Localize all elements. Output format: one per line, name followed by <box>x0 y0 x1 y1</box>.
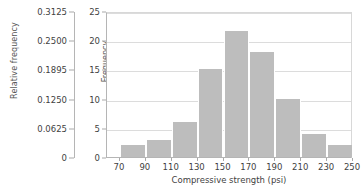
secondary-y-axis-ticks: 00.06250.12500.18950.25000.3125 <box>14 12 74 158</box>
secondary-y-tick-label: 0.0625 <box>37 124 67 134</box>
histogram-bar <box>301 134 327 157</box>
x-tick-mark <box>274 158 275 161</box>
plot-area <box>106 12 352 158</box>
secondary-y-tick-label: 0.1895 <box>37 65 67 75</box>
histogram-bar <box>198 69 224 157</box>
x-tick-mark <box>326 158 327 161</box>
x-tick-label: 250 <box>344 162 360 172</box>
x-tick-mark <box>248 158 249 161</box>
x-tick-mark <box>223 158 224 161</box>
x-tick-mark <box>145 158 146 161</box>
histogram-bars <box>107 13 351 157</box>
x-tick-mark <box>352 158 353 161</box>
histogram-bar <box>172 122 198 157</box>
secondary-y-axis-spine <box>74 12 75 158</box>
histogram-bar <box>327 145 353 157</box>
x-tick-label: 90 <box>139 162 150 172</box>
x-tick-mark <box>171 158 172 161</box>
x-axis-ticks: 7090110130150170190210230250 <box>106 158 352 174</box>
histogram-bar <box>275 99 301 157</box>
primary-y-tick-label: 10 <box>89 95 100 105</box>
x-tick-mark <box>119 158 120 161</box>
histogram-bar <box>120 145 146 157</box>
x-tick-label: 70 <box>113 162 124 172</box>
primary-y-tick-label: 25 <box>89 7 100 17</box>
primary-y-tick-label: 5 <box>95 124 100 134</box>
primary-y-axis-ticks: 0510152025 <box>78 12 106 158</box>
x-tick-label: 150 <box>214 162 230 172</box>
histogram-figure: Relative frequency 00.06250.12500.18950.… <box>0 0 361 195</box>
secondary-y-tick-label: 0 <box>62 153 67 163</box>
x-tick-label: 110 <box>163 162 179 172</box>
primary-y-tick-label: 15 <box>89 65 100 75</box>
primary-y-tick-label: 0 <box>95 153 100 163</box>
x-axis-title: Compressive strength (psi) <box>106 175 352 185</box>
primary-y-tick-label: 20 <box>89 36 100 46</box>
x-tick-label: 230 <box>318 162 334 172</box>
x-tick-label: 210 <box>292 162 308 172</box>
histogram-bar <box>249 52 275 157</box>
secondary-y-tick-label: 0.2500 <box>37 36 67 46</box>
histogram-bar <box>146 140 172 158</box>
secondary-y-tick-label: 0.3125 <box>37 7 67 17</box>
x-tick-mark <box>197 158 198 161</box>
x-tick-label: 190 <box>266 162 282 172</box>
x-tick-label: 170 <box>240 162 256 172</box>
histogram-bar <box>224 31 250 157</box>
x-tick-mark <box>300 158 301 161</box>
secondary-y-tick-label: 0.1250 <box>37 95 67 105</box>
x-tick-label: 130 <box>188 162 204 172</box>
